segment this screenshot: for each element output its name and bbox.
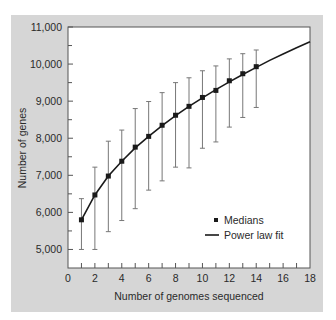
y-tick-label: 5,000 [36, 243, 62, 255]
x-axis-title: Number of genomes sequenced [114, 290, 264, 302]
y-axis: 5,0006,0007,0008,0009,00010,00011,000 [30, 21, 73, 268]
y-tick-label: 6,000 [36, 206, 62, 218]
median-marker [200, 95, 205, 100]
y-axis-title: Number of genes [16, 108, 28, 189]
x-tick-label: 0 [65, 272, 71, 284]
median-marker [79, 217, 84, 222]
x-tick-label: 6 [146, 272, 152, 284]
y-tick-label: 10,000 [30, 58, 62, 70]
median-marker [173, 113, 178, 118]
median-marker [160, 123, 165, 128]
median-marker [213, 88, 218, 93]
median-marker [106, 174, 111, 179]
legend-fit-label: Power law fit [224, 229, 284, 241]
medians-legend-marker-icon [214, 218, 218, 222]
median-marker [240, 71, 245, 76]
gene-count-chart: 5,0006,0007,0008,0009,00010,00011,000 02… [0, 0, 336, 320]
y-tick-label: 11,000 [31, 21, 62, 33]
x-tick-label: 4 [119, 272, 125, 284]
median-marker [119, 159, 124, 164]
median-marker [133, 145, 138, 150]
median-marker [146, 134, 151, 139]
x-tick-label: 12 [223, 272, 235, 284]
x-tick-label: 2 [92, 272, 98, 284]
median-marker [92, 192, 97, 197]
y-tick-label: 9,000 [36, 95, 62, 107]
median-marker [254, 64, 259, 69]
legend-medians-label: Medians [224, 214, 264, 226]
x-tick-label: 16 [277, 272, 289, 284]
x-tick-label: 18 [304, 272, 316, 284]
y-tick-label: 7,000 [36, 169, 62, 181]
x-tick-label: 8 [173, 272, 179, 284]
median-marker [227, 78, 232, 83]
y-tick-label: 8,000 [36, 132, 62, 144]
median-marker [187, 104, 192, 109]
x-tick-label: 10 [197, 272, 209, 284]
x-tick-label: 14 [250, 272, 262, 284]
